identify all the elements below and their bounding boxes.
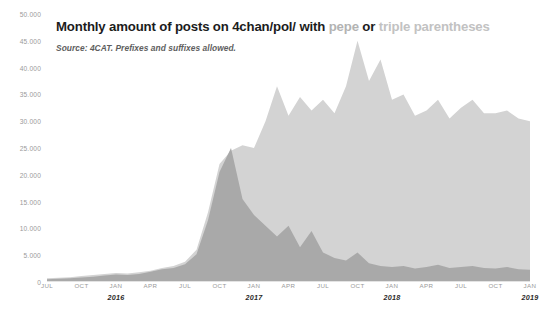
x-axis-tick: OCT	[74, 282, 88, 289]
x-axis-month-label: OCT	[74, 282, 88, 289]
x-axis-tick: APR	[282, 282, 296, 289]
x-axis-month-label: OCT	[212, 282, 226, 289]
x-axis-month-label: JUL	[41, 282, 53, 289]
x-axis-month-label: JAN	[522, 282, 539, 289]
x-axis-year-label: 2017	[246, 293, 263, 302]
x-axis-tick: JUL	[179, 282, 191, 289]
y-axis-tick-label: 20.000	[20, 171, 41, 178]
x-axis-tick: JUL	[317, 282, 329, 289]
x-axis-month-label: JAN	[384, 282, 401, 289]
x-axis-year-label: 2019	[522, 293, 539, 302]
x-axis-month-label: OCT	[350, 282, 364, 289]
x-axis-month-label: APR	[420, 282, 434, 289]
x-axis-month-label: JAN	[108, 282, 125, 289]
x-axis-tick: JAN2019	[522, 282, 539, 302]
y-axis-tick-label: 45.000	[20, 37, 41, 44]
x-axis-month-label: JUL	[317, 282, 329, 289]
x-axis-tick: JUL	[455, 282, 467, 289]
x-axis-tick: OCT	[488, 282, 502, 289]
x-axis-month-label: JUL	[455, 282, 467, 289]
x-axis-tick: OCT	[212, 282, 226, 289]
area-chart-svg	[47, 14, 530, 282]
x-axis-year-label: 2016	[108, 293, 125, 302]
x-axis-tick: APR	[144, 282, 158, 289]
y-axis-tick-label: 25.000	[20, 145, 41, 152]
y-axis-tick-label: 35.000	[20, 91, 41, 98]
x-axis-month-label: JUL	[179, 282, 191, 289]
x-axis-tick: OCT	[350, 282, 364, 289]
y-axis: 05.00010.00015.00020.00025.00030.00035.0…	[0, 0, 44, 290]
y-axis-tick-label: 5.000	[23, 252, 41, 259]
y-axis-tick-label: 30.000	[20, 118, 41, 125]
y-axis-tick-label: 50.000	[20, 11, 41, 18]
y-axis-tick-label: 40.000	[20, 64, 41, 71]
x-axis-month-label: APR	[282, 282, 296, 289]
x-axis-tick: JAN2018	[384, 282, 401, 302]
x-axis-tick: JUL	[41, 282, 53, 289]
x-axis-tick: JAN2016	[108, 282, 125, 302]
x-axis-month-label: JAN	[246, 282, 263, 289]
x-axis-month-label: APR	[144, 282, 158, 289]
x-axis-month-label: OCT	[488, 282, 502, 289]
chart-container: Monthly amount of posts on 4chan/pol/ wi…	[0, 0, 544, 320]
y-axis-tick-label: 15.000	[20, 198, 41, 205]
y-axis-tick-label: 10.000	[20, 225, 41, 232]
x-axis: JULOCTJAN2016APRJULOCTJAN2017APRJULOCTJA…	[47, 282, 530, 316]
plot-area	[47, 14, 530, 282]
x-axis-year-label: 2018	[384, 293, 401, 302]
x-axis-tick: APR	[420, 282, 434, 289]
x-axis-tick: JAN2017	[246, 282, 263, 302]
